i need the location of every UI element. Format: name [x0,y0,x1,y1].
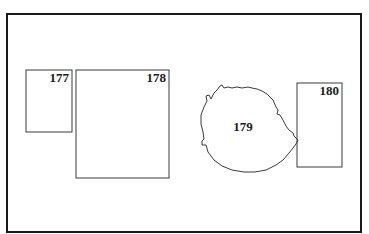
region-178: 178 [76,70,169,178]
region-180-label: 180 [320,83,340,98]
region-178-outline [76,70,169,178]
outer-frame [7,14,361,232]
region-177-label: 177 [50,70,70,85]
region-179: 179 [201,85,298,172]
figure-diagram: 177 178 179 180 [0,0,369,234]
region-177: 177 [26,70,72,132]
region-178-label: 178 [147,70,167,85]
region-180: 180 [297,83,342,167]
region-179-label: 179 [233,119,253,134]
